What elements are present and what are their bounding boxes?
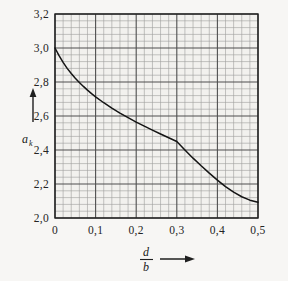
y-tick-label: 3,2 [34, 8, 49, 21]
x-axis-numerator: d [143, 245, 150, 259]
y-tick-label: 2,0 [34, 212, 49, 225]
y-tick-label: 2,4 [34, 144, 49, 157]
y-tick-label: 2,2 [34, 178, 49, 191]
x-tick-label: 0,2 [129, 224, 144, 237]
y-axis-symbol: a [22, 132, 28, 146]
x-tick-label: 0,5 [250, 224, 265, 237]
y-tick-label: 2,6 [34, 110, 49, 123]
chart-figure: 3,23,02,82,62,42,22,0 00,10,20,30,40,5 a… [0, 0, 288, 281]
y-axis-subscript: k [29, 139, 33, 148]
x-axis-denominator: b [143, 260, 149, 274]
y-tick-label: 2,8 [34, 76, 49, 89]
chart-svg: 3,23,02,82,62,42,22,0 00,10,20,30,40,5 a… [0, 0, 288, 281]
x-tick-label: 0,1 [88, 224, 103, 237]
x-tick-label: 0 [52, 224, 58, 236]
x-tick-label: 0,3 [169, 224, 184, 237]
y-tick-label: 3,0 [34, 42, 49, 55]
x-tick-label: 0,4 [210, 224, 225, 237]
